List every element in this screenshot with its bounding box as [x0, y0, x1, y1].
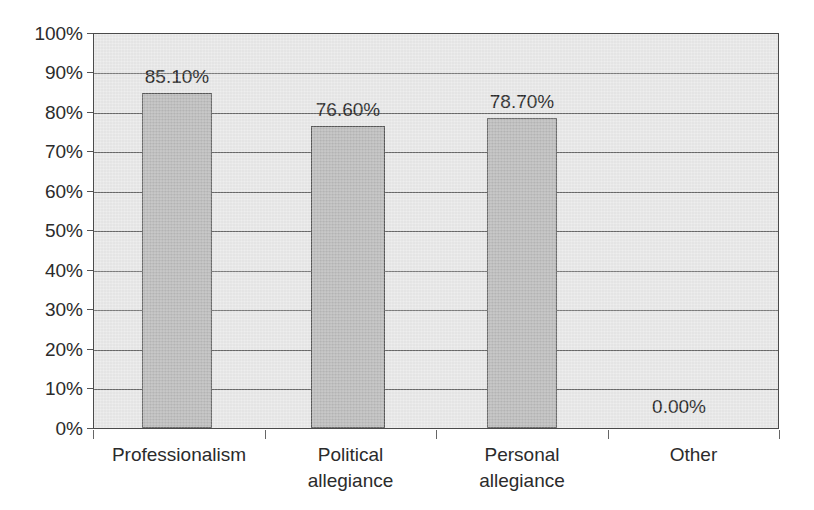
- category-label-line: Other: [608, 442, 779, 468]
- category-label-professionalism: Professionalism: [93, 442, 265, 468]
- y-tick-label-70: 70%: [3, 142, 83, 161]
- category-label-line: Personal: [436, 442, 608, 468]
- data-label-professionalism: 85.10%: [117, 67, 237, 86]
- data-label-other: 0.00%: [619, 397, 739, 416]
- y-tick-label-50: 50%: [3, 221, 83, 240]
- bar-political-allegiance[interactable]: [311, 126, 385, 428]
- x-divider-3: [608, 430, 609, 439]
- data-label-political-allegiance: 76.60%: [288, 100, 408, 119]
- category-label-line: allegiance: [265, 468, 436, 494]
- bar-chart: 100% 90% 80% 70% 60% 50% 40% 30% 20% 10%…: [0, 0, 814, 510]
- category-label-personal-allegiance: Personal allegiance: [436, 442, 608, 494]
- category-label-political-allegiance: Political allegiance: [265, 442, 436, 494]
- x-divider-end: [779, 430, 780, 439]
- y-tick-label-0: 0%: [3, 419, 83, 438]
- category-label-line: Professionalism: [93, 442, 265, 468]
- y-tick-label-60: 60%: [3, 182, 83, 201]
- y-tick-label-80: 80%: [3, 103, 83, 122]
- data-label-personal-allegiance: 78.70%: [462, 92, 582, 111]
- bar-professionalism[interactable]: [142, 93, 212, 428]
- category-label-other: Other: [608, 442, 779, 468]
- y-tick-label-90: 90%: [3, 63, 83, 82]
- y-tick-label-40: 40%: [3, 261, 83, 280]
- y-tick-label-30: 30%: [3, 300, 83, 319]
- bar-personal-allegiance[interactable]: [487, 118, 557, 428]
- plot-area: 85.10% 76.60% 78.70% 0.00%: [93, 33, 779, 429]
- y-tick-label-20: 20%: [3, 340, 83, 359]
- category-label-line: allegiance: [436, 468, 608, 494]
- y-tick-label-10: 10%: [3, 379, 83, 398]
- category-label-line: Political: [265, 442, 436, 468]
- x-divider-start: [93, 430, 94, 439]
- x-divider-2: [436, 430, 437, 439]
- x-divider-1: [265, 430, 266, 439]
- y-tick-label-100: 100%: [3, 24, 83, 43]
